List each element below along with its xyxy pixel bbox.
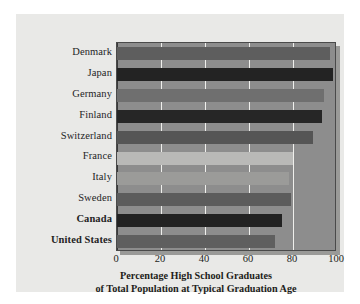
axis-title: Percentage High School Graduates of Tota… [32, 270, 360, 295]
x-axis-tick-labels: 020406080100 [116, 253, 342, 267]
y-axis-label-canada: Canada [32, 213, 112, 224]
bar [117, 110, 322, 123]
bar [117, 214, 282, 227]
y-axis-label-japan: Japan [32, 67, 112, 78]
bar [117, 68, 333, 81]
bar-row [117, 210, 335, 231]
bar-row [117, 168, 335, 189]
x-tick-label-60: 60 [243, 253, 254, 264]
y-axis-labels: DenmarkJapanGermanyFinlandSwitzerlandFra… [32, 42, 112, 251]
bar-row [117, 189, 335, 210]
bar-row [117, 64, 335, 85]
axis-title-line-1: Percentage High School Graduates [32, 270, 360, 283]
axis-title-line-2: of Total Population at Typical Graduatio… [32, 283, 360, 296]
bar-row [117, 127, 335, 148]
bar-row [117, 231, 335, 251]
bar [117, 152, 293, 165]
bar [117, 47, 330, 60]
bar-row [117, 43, 335, 64]
y-axis-label-switzerland: Switzerland [32, 130, 112, 141]
x-tick-label-0: 0 [113, 253, 118, 264]
figure-root: DenmarkJapanGermanyFinlandSwitzerlandFra… [0, 0, 360, 304]
chart-panel: DenmarkJapanGermanyFinlandSwitzerlandFra… [16, 14, 344, 292]
y-axis-label-united-states: United States [32, 234, 112, 245]
y-axis-label-sweden: Sweden [32, 192, 112, 203]
bar [117, 235, 275, 248]
bar-row [117, 106, 335, 127]
bar [117, 89, 324, 102]
y-axis-label-italy: Italy [32, 171, 112, 182]
x-tick-label-80: 80 [287, 253, 298, 264]
plot-wrapper [116, 42, 336, 251]
y-axis-label-germany: Germany [32, 88, 112, 99]
y-axis-label-france: France [32, 150, 112, 161]
bar [117, 172, 289, 185]
y-axis-label-finland: Finland [32, 109, 112, 120]
y-axis-label-denmark: Denmark [32, 46, 112, 57]
x-tick-label-100: 100 [328, 253, 344, 264]
x-tick-label-40: 40 [199, 253, 210, 264]
plot-area [116, 42, 336, 251]
bar-row [117, 85, 335, 106]
bar [117, 131, 313, 144]
bar [117, 193, 291, 206]
x-tick-label-20: 20 [155, 253, 166, 264]
bar-row [117, 148, 335, 169]
